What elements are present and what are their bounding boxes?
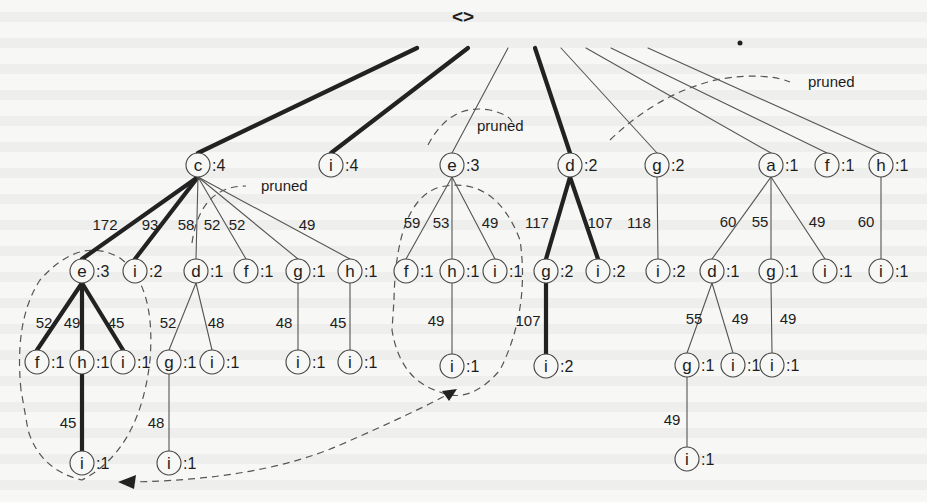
node-count: :2 [584, 157, 597, 174]
edge-weight-label: 60 [720, 213, 737, 230]
node-letter: i [296, 353, 300, 372]
node-letter: i [80, 454, 84, 473]
node-letter: i [121, 353, 125, 372]
edge-weight-label: 49 [780, 310, 797, 327]
node-letter: i [731, 356, 735, 375]
edge-weight-label: 49 [482, 214, 499, 231]
node-count: :1 [260, 263, 273, 280]
node-count: :1 [726, 263, 739, 280]
node-letter: i [770, 356, 774, 375]
node-letter: g [682, 356, 691, 375]
tree-node-c: c:4 [186, 153, 225, 177]
node-letter: f [825, 156, 830, 175]
edge-n-ag-n-agi [771, 283, 772, 353]
tree-node-i: i:1 [157, 451, 196, 475]
edge-weight-label: 49 [732, 310, 749, 327]
edge-weight-label: 49 [809, 213, 826, 230]
node-count: :2 [612, 263, 625, 280]
edge-weight-label: 55 [752, 213, 769, 230]
node-count: :1 [466, 358, 479, 375]
node-letter: i [656, 262, 660, 281]
node-letter: i [879, 262, 883, 281]
node-letter: i [823, 262, 827, 281]
edge-weight-label: 52 [229, 216, 246, 233]
node-letter: e [77, 262, 86, 281]
node-count: :4 [212, 157, 225, 174]
tree-node-i: i:4 [319, 153, 358, 177]
node-letter: h [345, 262, 354, 281]
edge-n-g2-n-gi [657, 177, 658, 259]
edge-weight-label: 58 [178, 216, 195, 233]
tree-node-h: h:1 [440, 259, 479, 283]
node-count: :1 [183, 455, 196, 472]
edge-weight-label: 53 [433, 214, 450, 231]
edge-weight-label: 45 [330, 314, 347, 331]
tree-node-a: a:1 [759, 153, 798, 177]
root-node-label: <> [452, 6, 474, 27]
tree-node-g: g:2 [534, 259, 573, 283]
node-count: :3 [466, 157, 479, 174]
edge-root-n-d2 [535, 48, 570, 153]
edge-weight-label: 117 [525, 214, 549, 231]
tree-node-i: i:1 [721, 353, 760, 377]
tree-node-d: d:1 [700, 259, 739, 283]
node-letter: h [77, 353, 86, 372]
node-count: :1 [137, 354, 150, 371]
tree-edges [37, 48, 881, 451]
edge-root-n-i4 [331, 48, 468, 153]
tree-node-h: h:1 [338, 259, 377, 283]
node-letter: i [329, 156, 333, 175]
node-letter: g [541, 262, 550, 281]
tree-node-e: e:3 [70, 259, 109, 283]
node-count: :1 [509, 263, 522, 280]
tree-node-d: d:1 [184, 259, 223, 283]
edge-weight-label: 49 [428, 312, 445, 329]
node-count: :1 [701, 357, 714, 374]
edge-root-n-e3 [452, 48, 508, 153]
node-count: :1 [183, 354, 196, 371]
tree-node-g: g:1 [286, 259, 325, 283]
node-letter: i [685, 450, 689, 469]
tree-node-i: i:1 [286, 350, 325, 374]
edge-weight-label: 118 [627, 214, 651, 231]
node-count: :1 [466, 263, 479, 280]
node-count: :1 [786, 357, 799, 374]
edge-weight-label: 45 [60, 414, 77, 431]
node-letter: i [544, 357, 548, 376]
node-letter: f [404, 262, 409, 281]
node-count: :1 [895, 263, 908, 280]
tree-node-f: f:1 [815, 153, 854, 177]
tree-node-h: h:1 [70, 350, 109, 374]
node-letter: i [450, 357, 454, 376]
tree-node-i: i:2 [646, 259, 685, 283]
tree-node-g: g:2 [645, 153, 684, 177]
edge-n-c-n-cd [196, 177, 198, 259]
node-count: :1 [312, 354, 325, 371]
node-letter: d [191, 262, 200, 281]
edge-weight-label: 49 [664, 411, 681, 428]
node-count: :2 [671, 157, 684, 174]
node-count: :1 [785, 157, 798, 174]
tree-node-i: i:1 [760, 353, 799, 377]
tree-node-h: h:1 [869, 153, 908, 177]
edge-root-n-f1t [611, 48, 827, 153]
tree-node-f: f:1 [25, 350, 64, 374]
node-count: :1 [210, 263, 223, 280]
edge-weight-label: 52 [36, 314, 53, 331]
edge-n-d2-n-dg [546, 177, 570, 259]
edge-weight-label: 45 [108, 314, 125, 331]
node-letter: c [194, 156, 203, 175]
node-letter: e [447, 156, 456, 175]
node-count: :1 [364, 354, 377, 371]
arrowhead-left-icon [118, 475, 136, 489]
pruned-label: pruned [477, 117, 524, 134]
node-count: :1 [839, 263, 852, 280]
edge-weight-label: 48 [208, 314, 225, 331]
tree-node-i: i:2 [123, 259, 162, 283]
node-letter: h [447, 262, 456, 281]
edge-weight-label: 48 [276, 314, 293, 331]
node-count: :2 [560, 263, 573, 280]
tree-node-i: i:1 [200, 350, 239, 374]
edge-weight-label: 107 [515, 312, 540, 329]
edge-weight-label: 60 [858, 213, 875, 230]
